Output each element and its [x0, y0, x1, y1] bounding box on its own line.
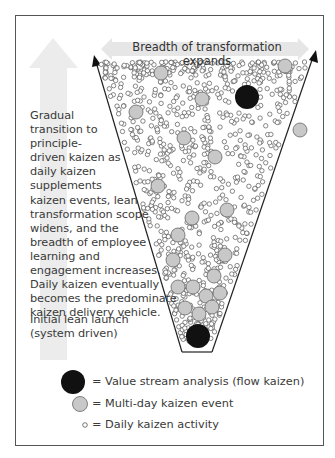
- description-text: Gradual transition to principle- driven …: [30, 109, 190, 320]
- description-line: learning and: [30, 250, 190, 264]
- description-line: transition to: [30, 123, 190, 137]
- description-line: daily kaizen: [30, 165, 190, 179]
- description-line: principle-: [30, 137, 190, 151]
- description-line: driven kaizen as: [30, 151, 190, 165]
- legend-small-circle-icon: [83, 423, 88, 428]
- breadth-label: Breadth of transformation expands: [112, 40, 302, 68]
- legend-black-circle-icon: [61, 370, 85, 394]
- legend-symbols: [61, 370, 88, 427]
- legend-gray-circle-icon: [73, 397, 88, 412]
- description-line: supplements: [30, 179, 190, 193]
- description-line: transformation scope: [30, 208, 190, 222]
- launch-line: (system driven): [30, 327, 190, 341]
- description-line: widens, and the: [30, 222, 190, 236]
- legend-item-daily: = Daily kaizen activity: [92, 418, 219, 431]
- launch-line: Initial lean launch: [30, 313, 190, 327]
- legend-item-multi-day: = Multi-day kaizen event: [92, 397, 233, 410]
- legend-item-value-stream: = Value stream analysis (flow kaizen): [92, 375, 304, 388]
- description-line: becomes the predominate: [30, 292, 190, 306]
- description-line: Daily kaizen eventually: [30, 278, 190, 292]
- description-line: engagement increases.: [30, 264, 190, 278]
- launch-text: Initial lean launch (system driven): [30, 313, 190, 341]
- description-line: Gradual: [30, 109, 190, 123]
- description-line: kaizen events, lean: [30, 194, 190, 208]
- description-line: breadth of employee: [30, 236, 190, 250]
